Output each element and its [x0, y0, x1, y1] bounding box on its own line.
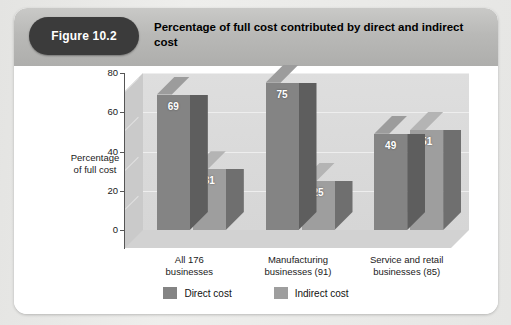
category-label-1: All 176businesses	[135, 254, 244, 277]
bar-side-face	[190, 95, 208, 230]
category-label-line-2: businesses (91)	[244, 266, 353, 278]
y-tick-label: 80	[96, 67, 118, 78]
legend-swatch-icon	[163, 287, 177, 299]
figure-title: Percentage of full cost contributed by d…	[154, 20, 479, 49]
bar-front-face	[374, 134, 407, 230]
y-axis-line	[124, 73, 125, 249]
y-tick-label: 60	[96, 106, 118, 117]
legend-label: Indirect cost	[295, 288, 349, 299]
legend-item-indirect-cost[interactable]: Indirect cost	[274, 287, 349, 299]
y-tick-label: 0	[96, 224, 118, 235]
y-tick-label: 20	[96, 185, 118, 196]
category-label-3: Service and retailbusinesses (85)	[352, 254, 461, 277]
y-tick-label: 40	[96, 146, 118, 157]
bar-direct-cost-2[interactable]: 75	[266, 83, 299, 230]
chart-legend: Direct costIndirect cost	[14, 287, 498, 299]
bar-front-face	[157, 95, 190, 230]
page-background: Figure 10.2 Percentage of full cost cont…	[0, 0, 511, 325]
y-tick-mark	[120, 73, 124, 74]
bar-side-face	[299, 83, 317, 230]
plot-floor	[125, 230, 469, 248]
bar-direct-cost-3[interactable]: 49	[374, 134, 407, 230]
category-label-line-2: businesses (85)	[352, 266, 461, 278]
gridline	[143, 73, 469, 74]
y-tick-mark	[120, 230, 124, 231]
category-label-2: Manufacturingbusinesses (91)	[244, 254, 353, 277]
figure-number-badge: Figure 10.2	[29, 17, 139, 55]
y-tick-mark	[120, 112, 124, 113]
figure-number-label: Figure 10.2	[51, 29, 117, 43]
category-label-line-1: Service and retail	[352, 254, 461, 266]
figure-header-band: Figure 10.2 Percentage of full cost cont…	[14, 8, 498, 66]
legend-swatch-icon	[274, 287, 288, 299]
bar-direct-cost-1[interactable]: 69	[157, 95, 190, 230]
y-tick-mark	[120, 191, 124, 192]
legend-label: Direct cost	[184, 288, 231, 299]
plot-area: 020406080 514925753169 All 176businesses…	[14, 66, 498, 314]
category-label-line-1: Manufacturing	[244, 254, 353, 266]
legend-item-direct-cost[interactable]: Direct cost	[163, 287, 231, 299]
bar-front-face	[266, 83, 299, 230]
category-label-line-2: businesses	[135, 266, 244, 278]
chart-container: Percentage of full cost 020406080 514925…	[14, 66, 498, 314]
y-tick-mark	[120, 152, 124, 153]
figure-card: Figure 10.2 Percentage of full cost cont…	[14, 8, 498, 314]
category-label-line-1: All 176	[135, 254, 244, 266]
